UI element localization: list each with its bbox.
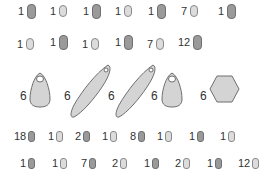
bead-count: 1 — [18, 6, 24, 17]
bead-count: 12 — [178, 37, 190, 48]
pendant-count: 6 — [151, 89, 158, 103]
bead-count-item: 12 — [178, 35, 202, 50]
bead-count: 1 — [207, 158, 213, 169]
bead-count: 1 — [115, 37, 121, 48]
bead-icon — [56, 131, 63, 142]
bead-count-item: 8 — [130, 131, 145, 142]
bead-count-item: 1 — [115, 5, 132, 17]
bead-count: 1 — [48, 131, 54, 142]
bead-count: 1 — [189, 131, 195, 142]
bead-icon — [124, 35, 133, 50]
bead-icon — [197, 131, 204, 142]
bead-icon — [157, 4, 166, 19]
bead-count: 2 — [175, 158, 181, 169]
bead-icon — [227, 4, 236, 19]
bead-icon — [60, 158, 67, 169]
bead-count: 7 — [147, 39, 153, 50]
bead-count: 1 — [148, 6, 154, 17]
bead-icon — [59, 5, 67, 17]
bead-count: 1 — [220, 131, 226, 142]
bead-icon — [152, 158, 159, 169]
bead-icon — [110, 131, 117, 142]
drop-pendant-icon — [160, 72, 184, 108]
hexagon-pendant-icon — [209, 75, 240, 103]
bead-count: 8 — [130, 131, 136, 142]
bead-count-item: 1 — [220, 131, 235, 142]
bead-count-item: 1 — [50, 35, 68, 50]
bead-icon — [92, 4, 101, 19]
bead-count-item: 2 — [75, 131, 90, 142]
bead-icon — [183, 158, 190, 169]
bead-count: 2 — [75, 131, 81, 142]
bead-icon — [190, 5, 198, 17]
bead-count-item: 1 — [18, 4, 36, 19]
bead-icon — [91, 38, 99, 50]
bead-count-item: 2 — [112, 158, 127, 169]
bead-count-item: 2 — [175, 158, 190, 169]
bead-count-item: 1 — [157, 131, 172, 142]
bead-icon — [120, 158, 127, 169]
bead-count-item: 1 — [218, 4, 236, 19]
bead-icon — [193, 35, 202, 50]
bead-count-item: 1 — [50, 5, 67, 17]
bead-count-item: 1 — [115, 35, 133, 50]
bead-icon — [28, 131, 35, 142]
bead-count: 18 — [14, 131, 26, 142]
bead-count-item: 1 — [207, 158, 222, 169]
pendant-count: 6 — [200, 89, 207, 103]
bead-count: 1 — [157, 131, 163, 142]
bead-icon — [26, 38, 34, 50]
bead-count: 1 — [82, 39, 88, 50]
bead-count: 12 — [238, 158, 250, 169]
bead-count-item: 1 — [148, 4, 166, 19]
bead-count: 1 — [52, 158, 58, 169]
bead-icon — [28, 158, 35, 169]
pendant-count: 6 — [20, 89, 27, 103]
bead-count-item: 12 — [238, 158, 259, 169]
bead-count: 2 — [112, 158, 118, 169]
bead-icon — [83, 131, 90, 142]
bead-icon — [138, 131, 145, 142]
bead-count-item: 1 — [144, 158, 159, 169]
bead-count: 7 — [81, 158, 87, 169]
bead-icon — [215, 158, 222, 169]
bead-count-item: 7 — [147, 38, 164, 50]
bead-count-item: 7 — [181, 5, 198, 17]
bead-icon — [228, 131, 235, 142]
bead-count-item: 7 — [81, 158, 96, 169]
bead-count: 1 — [218, 6, 224, 17]
bead-count-item: 1 — [102, 131, 117, 142]
bead-count: 1 — [115, 6, 121, 17]
bead-icon — [27, 4, 36, 19]
bead-icon — [59, 35, 68, 50]
bead-icon — [165, 131, 172, 142]
bead-count-item: 1 — [82, 38, 99, 50]
long-leaf-pendant-icon — [68, 63, 112, 119]
drop-pendant-icon — [28, 72, 52, 108]
bead-count-item: 18 — [14, 131, 35, 142]
bead-count: 1 — [83, 6, 89, 17]
bead-count: 1 — [17, 39, 23, 50]
bead-count-item: 1 — [83, 4, 101, 19]
bead-count-item: 1 — [189, 131, 204, 142]
bead-count: 1 — [102, 131, 108, 142]
bead-count-item: 1 — [52, 158, 67, 169]
bead-count: 7 — [181, 6, 187, 17]
bead-icon — [252, 158, 259, 169]
bead-count-item: 1 — [48, 131, 63, 142]
bead-icon — [124, 5, 132, 17]
bead-count-item: 1 — [20, 158, 35, 169]
bead-count: 1 — [20, 158, 26, 169]
bead-count: 1 — [50, 37, 56, 48]
bead-icon — [156, 38, 164, 50]
bead-count-item: 1 — [17, 38, 34, 50]
bead-icon — [89, 158, 96, 169]
bead-count: 1 — [144, 158, 150, 169]
bead-count: 1 — [50, 6, 56, 17]
